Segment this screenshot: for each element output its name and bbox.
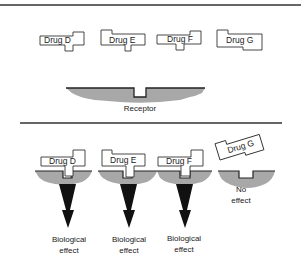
outcome-f-line2: effect: [174, 245, 194, 254]
drug-f-bound-label: Drug F: [166, 156, 192, 166]
drug-d-label: Drug D: [44, 35, 71, 45]
binding-drug-d: Drug D Biological effect: [35, 150, 92, 255]
receptor-binding-diagram: Drug D Drug E Drug F Drug G Receptor Dru…: [0, 0, 301, 270]
outcome-g-line1: No: [236, 185, 247, 194]
receptor-g-body: [218, 171, 275, 188]
binding-drug-e: Drug E Biological effect: [98, 150, 157, 255]
outcome-g-line2: effect: [231, 196, 251, 205]
binding-drug-g: Drug G No effect: [215, 131, 275, 205]
drug-e-free: Drug E: [101, 30, 145, 51]
drug-f-free: Drug F: [157, 31, 201, 50]
binding-drug-f: Drug F Biological effect: [157, 150, 212, 254]
receptor-body: [66, 88, 205, 103]
drug-d-bound-label: Drug D: [49, 156, 76, 166]
drug-e-bound-label: Drug E: [110, 155, 137, 165]
drug-g-label: Drug G: [226, 35, 253, 45]
outcome-e-line2: effect: [119, 246, 139, 255]
receptor-label: Receptor: [124, 104, 157, 113]
drug-e-label: Drug E: [109, 35, 136, 45]
outcome-d-line1: Biological: [52, 235, 86, 244]
drug-d-free: Drug D: [40, 32, 84, 51]
arrow-down-icon: [120, 184, 137, 228]
outcome-f-line1: Biological: [167, 234, 201, 243]
drug-g-free: Drug G: [217, 30, 262, 50]
drug-f-label: Drug F: [167, 34, 193, 44]
outcome-e-line1: Biological: [112, 235, 146, 244]
outcome-d-line2: effect: [59, 246, 79, 255]
arrow-down-icon: [176, 184, 193, 228]
arrow-down-icon: [59, 184, 76, 228]
receptor: Receptor: [66, 88, 205, 113]
drug-g-tilted: Drug G: [215, 131, 264, 163]
